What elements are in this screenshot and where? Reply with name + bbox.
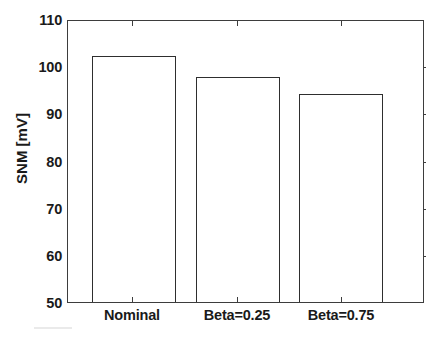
y-tick-label-80: 80 [28,154,62,170]
bar-beta-0-75[interactable] [299,94,383,302]
x-tick-label-beta-0-75: Beta=0.75 [308,307,374,323]
y-tick-label-70: 70 [28,201,62,217]
chart-figure: SNM [mV] 110 100 90 80 70 60 50 Nominal [0,0,438,339]
y-tick-label-110: 110 [28,12,62,28]
y-tick-label-90: 90 [28,106,62,122]
x-tick-label-beta-0-25: Beta=0.25 [204,307,270,323]
x-tick-label-nominal: Nominal [104,307,160,323]
plot-area [67,20,424,303]
bar-nominal[interactable] [92,56,176,302]
bar-beta-0-25[interactable] [196,77,280,302]
y-tick-label-50: 50 [28,295,62,311]
y-tick-label-100: 100 [28,59,62,75]
y-axis-tick-labels: 110 100 90 80 70 60 50 [22,20,62,303]
scan-artifact [34,327,72,329]
y-tick-label-60: 60 [28,248,62,264]
